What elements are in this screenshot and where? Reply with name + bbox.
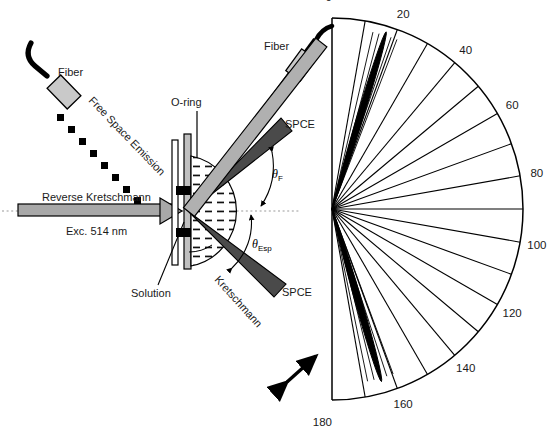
polar-lobe-ray <box>332 39 397 209</box>
free-space-emission-label: Free Space Emission <box>87 94 168 178</box>
schematic-diagram: Free Space Emission Fiber Reverse Kretsc… <box>2 26 332 382</box>
polar-plot: 020406080100120140160180 <box>313 0 547 428</box>
polar-tick-160: 160 <box>394 398 413 410</box>
polar-grid <box>332 18 523 400</box>
polar-tick-0: 0 <box>326 0 332 3</box>
polar-tick-labels: 020406080100120140160180 <box>313 0 547 428</box>
polar-tick-80: 80 <box>530 167 543 179</box>
polar-data-lobes <box>332 32 397 382</box>
polar-tick-100: 100 <box>527 239 546 251</box>
solution-leader <box>158 222 184 285</box>
polar-tick-60: 60 <box>506 99 519 111</box>
polar-lobe-ray <box>332 209 387 376</box>
right-fiber-tail <box>316 26 332 40</box>
spce-lower-label: SPCE <box>282 286 312 298</box>
kretschmann-double-arrow <box>287 356 316 382</box>
left-fiber-cable <box>28 43 47 76</box>
excitation-label: Exc. 514 nm <box>66 225 127 237</box>
polar-lobe-ray <box>332 32 373 209</box>
polar-tick-140: 140 <box>456 362 475 374</box>
polar-lobe-ray <box>332 209 393 374</box>
spce-upper-label: SPCE <box>285 118 315 130</box>
figure-svg: Free Space Emission Fiber Reverse Kretsc… <box>0 0 556 435</box>
left-fiber-label: Fiber <box>58 66 83 78</box>
kretschmann-label: Kretschmann <box>213 273 265 329</box>
polar-tick-180: 180 <box>313 416 332 428</box>
polar-tick-20: 20 <box>397 8 410 20</box>
reverse-kretschmann-label: Reverse Kretschmann <box>42 191 151 203</box>
right-fiber-label: Fiber <box>264 40 289 52</box>
theta-f-label: θF <box>272 167 283 183</box>
polar-lobe-ray <box>332 34 379 209</box>
solution-label: Solution <box>131 287 171 299</box>
polar-lobe-ray <box>332 209 380 378</box>
theta-esp-label: θEsp <box>252 237 272 253</box>
figure-root: Free Space Emission Fiber Reverse Kretsc… <box>0 0 556 435</box>
polar-tick-120: 120 <box>503 307 522 319</box>
polar-tick-40: 40 <box>459 44 472 56</box>
o-ring-label: O-ring <box>171 96 202 108</box>
left-fiber-connector <box>47 75 81 109</box>
